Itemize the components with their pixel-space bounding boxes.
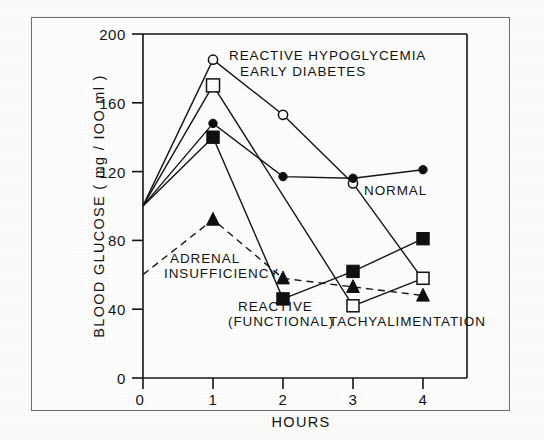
figure-canvas: 200 160 120 80 40 0 0 1 2 3 4 HOURS BLOO… [0,0,544,440]
x-tick-labels: 0 1 2 3 4 [136,391,428,408]
x-tick-3: 3 [349,391,358,408]
marker-point [347,300,359,312]
annotation-line-1: REACTIVE HYPOGLYCEMIA [229,48,426,63]
chart-svg: 200 160 120 80 40 0 0 1 2 3 4 HOURS BLOO… [0,0,544,440]
y-tick-200: 200 [99,26,126,43]
marker-point [207,79,220,92]
y-tick-80: 80 [108,232,126,249]
marker-point [278,110,287,119]
annotation-line-1: REACTIVE [238,299,313,314]
marker-point [417,233,429,245]
marker-point [207,131,219,143]
marker-point [208,55,217,64]
annotation-line-2: EARLY DIABETES [240,64,366,79]
marker-point [419,166,427,174]
marker-point [279,172,287,180]
marker-point [209,119,217,127]
annotation-reactive-hypoglycemia: REACTIVE HYPOGLYCEMIA EARLY DIABETES [229,48,426,79]
x-tick-1: 1 [209,391,218,408]
annotation-normal: NORMAL [364,183,427,198]
series-line-reactive-hypoglycemia [143,60,423,280]
marker-point [417,272,429,284]
x-tick-4: 4 [419,391,428,408]
annotation-adrenal-insufficiency: ADRENAL INSUFFICIENCY [164,251,279,281]
y-axis [132,34,143,378]
x-axis [143,378,467,389]
annotation-line-2: INSUFFICIENCY [164,266,279,281]
y-tick-0: 0 [117,370,126,387]
y-tick-40: 40 [108,301,126,318]
marker-point [349,174,357,182]
x-tick-2: 2 [279,391,288,408]
annotation-tachyalimentation: TACHYALIMENTATION [329,314,486,329]
marker-point [347,265,359,277]
x-axis-title: HOURS [272,414,331,430]
y-axis-title: BLOOD GLUCOSE ( mg / IOO ml ) [91,74,107,337]
annotation-line-1: ADRENAL [170,251,240,266]
marker-point [207,212,220,225]
x-tick-0: 0 [136,391,145,408]
annotation-line-2: (FUNCTIONAL) [228,314,334,329]
annotation-reactive-functional: REACTIVE (FUNCTIONAL) [228,299,334,329]
